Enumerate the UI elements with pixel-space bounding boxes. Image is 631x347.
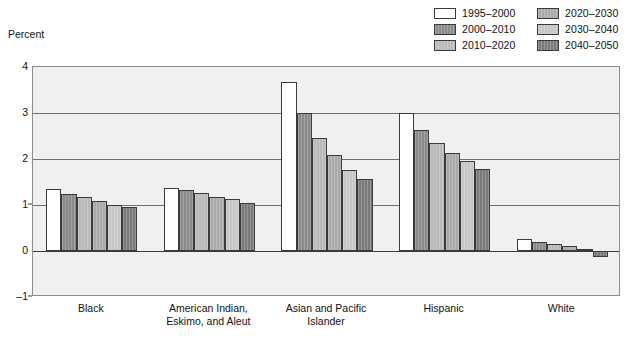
bar <box>46 189 61 251</box>
legend-swatch <box>537 40 559 51</box>
x-category-label: White <box>548 302 575 315</box>
legend-item: 2030–2040 <box>537 21 626 37</box>
legend-label: 2040–2050 <box>565 40 618 51</box>
bar <box>342 170 357 251</box>
bar <box>312 138 327 251</box>
bar-group <box>517 67 608 295</box>
legend-item: 2010–2020 <box>434 37 523 53</box>
legend-label: 2030–2040 <box>565 24 618 35</box>
legend-swatch <box>434 40 456 51</box>
bar <box>122 207 137 251</box>
bar <box>414 130 429 251</box>
legend-item: 2040–2050 <box>537 37 626 53</box>
x-category-label: American Indian, Eskimo, and Aleut <box>166 302 250 328</box>
bar <box>77 197 92 251</box>
bar-group <box>164 67 255 295</box>
y-tick-label: –1 <box>12 290 28 302</box>
bar-group <box>399 67 490 295</box>
legend-swatch-texture <box>435 41 455 50</box>
legend-swatch-texture <box>538 25 558 34</box>
bar <box>179 190 194 251</box>
legend-swatch-texture <box>538 41 558 50</box>
legend-label: 2010–2020 <box>462 40 515 51</box>
legend-label: 2000–2010 <box>462 24 515 35</box>
y-tick-label: 1 <box>12 198 28 210</box>
bar <box>297 113 312 251</box>
y-tick-label: 0 <box>12 244 28 256</box>
bar <box>164 188 179 251</box>
bar <box>562 246 577 251</box>
y-axis-title: Percent <box>8 28 44 40</box>
bar <box>92 201 107 251</box>
bar <box>460 161 475 251</box>
bar <box>593 251 608 257</box>
bar <box>445 153 460 251</box>
bar <box>532 242 547 251</box>
legend-swatch <box>434 8 456 19</box>
legend-swatch <box>434 24 456 35</box>
x-category-label: Hispanic <box>423 302 463 315</box>
chart-legend: 1995–20002000–20102010–20202020–20302030… <box>434 5 626 55</box>
bar <box>61 194 76 251</box>
legend-item: 2020–2030 <box>537 5 626 21</box>
y-tick-label: 2 <box>12 152 28 164</box>
bar <box>357 179 372 251</box>
x-category-label: Asian and Pacific Islander <box>286 302 367 328</box>
legend-swatch <box>537 8 559 19</box>
bar <box>475 169 490 251</box>
bar <box>577 249 592 251</box>
bar <box>547 244 562 251</box>
y-tick-label: 4 <box>12 60 28 72</box>
plot-area <box>32 66 620 296</box>
bar <box>429 143 444 251</box>
x-axis-category-labels: BlackAmerican Indian, Eskimo, and AleutA… <box>32 302 620 342</box>
legend-swatch-texture <box>538 9 558 18</box>
bar-group <box>281 67 372 295</box>
bar <box>107 205 122 251</box>
bar <box>517 239 532 251</box>
bar <box>240 203 255 251</box>
legend-label: 2020–2030 <box>565 8 618 19</box>
bar <box>225 199 240 251</box>
legend-item: 2000–2010 <box>434 21 523 37</box>
x-category-label: Black <box>78 302 104 315</box>
legend-item: 1995–2000 <box>434 5 523 21</box>
bar <box>281 82 296 251</box>
bar <box>209 197 224 251</box>
bar <box>399 113 414 251</box>
legend-swatch <box>537 24 559 35</box>
chart-root: Percent 1995–20002000–20102010–20202020–… <box>0 0 631 347</box>
bar-group <box>46 67 137 295</box>
bar <box>327 155 342 251</box>
legend-label: 1995–2000 <box>462 8 515 19</box>
bar <box>194 193 209 251</box>
bar-groups <box>33 67 619 295</box>
y-tick-label: 3 <box>12 106 28 118</box>
legend-swatch-texture <box>435 25 455 34</box>
